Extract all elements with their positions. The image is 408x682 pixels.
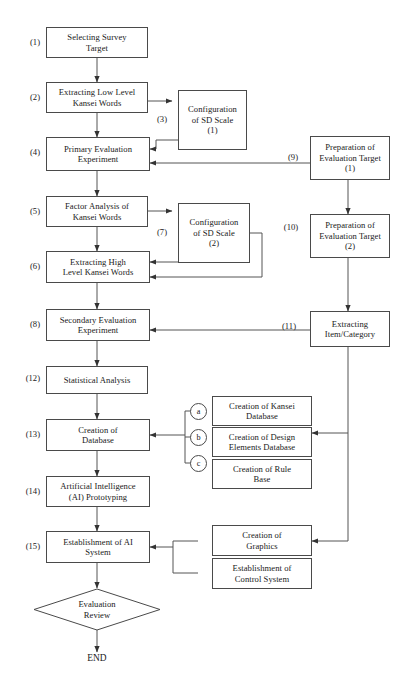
node-text-line: Database bbox=[229, 411, 295, 421]
node-text-line: Creation of Design bbox=[229, 432, 295, 442]
node-text-line: Creation of Kansei bbox=[229, 401, 295, 411]
node-extracting-low-level-kansei-words[interactable]: Extracting Low Level Kansei Words bbox=[46, 82, 148, 113]
node-selecting-survey-target[interactable]: Selecting Survey Target bbox=[46, 27, 148, 58]
node-creation-of-database[interactable]: Creation of Database bbox=[46, 419, 150, 451]
node-text-line: (AI) Prototyping bbox=[60, 492, 135, 502]
node-text-line: Experiment bbox=[60, 325, 137, 335]
step-label-4: (4) bbox=[12, 147, 40, 157]
step-label-11: (11) bbox=[274, 321, 304, 331]
node-text-line: Establishment of bbox=[233, 563, 292, 573]
step-label-12: (12) bbox=[8, 373, 40, 383]
node-text-line: Extracting High bbox=[63, 257, 134, 267]
decision-text-line: Evaluation bbox=[78, 599, 115, 609]
node-text-line: Extracting Low Level bbox=[59, 87, 135, 97]
node-establishment-of-ai-system[interactable]: Establishment of AI System bbox=[46, 531, 150, 563]
step-label-a: a bbox=[190, 403, 207, 420]
node-text-line: Factor Analysis of bbox=[65, 201, 129, 211]
node-text-line: of SD Scale bbox=[188, 115, 237, 125]
step-label-6: (6) bbox=[12, 261, 40, 271]
step-label-10: (10) bbox=[276, 222, 306, 232]
node-preparation-evaluation-target-1[interactable]: Preparation of Evaluation Target (1) bbox=[310, 136, 390, 180]
step-label-c-text: c bbox=[197, 459, 201, 468]
node-primary-evaluation-experiment[interactable]: Primary Evaluation Experiment bbox=[46, 137, 150, 171]
node-text-line: Artificial Intelligence bbox=[60, 481, 135, 491]
step-label-2: (2) bbox=[12, 92, 40, 102]
node-text-line: Preparation of bbox=[319, 220, 381, 230]
step-label-3: (3) bbox=[150, 114, 174, 124]
node-text-line: Establishment of AI bbox=[63, 537, 133, 547]
node-text-line: Evaluation Target bbox=[319, 231, 381, 241]
node-text-line: (2) bbox=[319, 241, 381, 251]
node-text-line: Secondary Evaluation bbox=[60, 315, 137, 325]
node-text-line: Experiment bbox=[64, 154, 132, 164]
step-label-8: (8) bbox=[12, 319, 40, 329]
step-label-7: (7) bbox=[150, 227, 174, 237]
node-configuration-sd-scale-2[interactable]: Configuration of SD Scale (2) bbox=[178, 203, 250, 263]
node-factor-analysis-kansei-words[interactable]: Factor Analysis of Kansei Words bbox=[46, 196, 148, 227]
node-statistical-analysis[interactable]: Statistical Analysis bbox=[46, 366, 148, 394]
node-text-line: Level Kansei Words bbox=[63, 267, 134, 277]
node-creation-of-rule-base[interactable]: Creation of Rule Base bbox=[212, 459, 312, 489]
node-extracting-item-category[interactable]: Extracting Item/Category bbox=[310, 311, 390, 347]
node-text-line: Kansei Words bbox=[59, 98, 135, 108]
node-text-line: of SD Scale bbox=[190, 228, 239, 238]
node-extracting-high-level-kansei-words[interactable]: Extracting High Level Kansei Words bbox=[46, 251, 150, 283]
node-text-line: Preparation of bbox=[319, 142, 381, 152]
node-text-line: (1) bbox=[188, 125, 237, 135]
step-label-b-text: b bbox=[196, 433, 200, 442]
step-label-1: (1) bbox=[12, 37, 40, 47]
node-text-line: (2) bbox=[190, 238, 239, 248]
step-label-14: (14) bbox=[8, 486, 40, 496]
node-text-line: (1) bbox=[319, 163, 381, 173]
node-text-line: Creation of bbox=[78, 425, 117, 435]
node-text-line: Configuration bbox=[188, 104, 237, 114]
node-text-line: Item/Category bbox=[325, 329, 375, 339]
step-label-c: c bbox=[190, 455, 207, 472]
step-label-13: (13) bbox=[8, 429, 40, 439]
step-label-9: (9) bbox=[280, 152, 306, 162]
node-text-line: Creation of bbox=[242, 530, 281, 540]
node-text-line: Elements Database bbox=[229, 442, 295, 452]
step-label-15: (15) bbox=[8, 541, 40, 551]
node-secondary-evaluation-experiment[interactable]: Secondary Evaluation Experiment bbox=[46, 309, 150, 341]
node-preparation-evaluation-target-2[interactable]: Preparation of Evaluation Target (2) bbox=[310, 214, 390, 258]
node-text-line: Graphics bbox=[242, 541, 281, 551]
node-text-line: Extracting bbox=[325, 319, 375, 329]
node-text-line: Primary Evaluation bbox=[64, 144, 132, 154]
node-creation-of-graphics[interactable]: Creation of Graphics bbox=[212, 525, 312, 556]
step-label-b: b bbox=[190, 429, 207, 446]
node-text-line: Control System bbox=[233, 574, 292, 584]
node-text-line: Creation of Rule bbox=[233, 464, 291, 474]
node-text-line: Configuration bbox=[190, 217, 239, 227]
node-text-line: Target bbox=[67, 43, 126, 53]
node-text-line: Kansei Words bbox=[65, 212, 129, 222]
node-text-line: System bbox=[63, 547, 133, 557]
node-ai-prototyping[interactable]: Artificial Intelligence (AI) Prototyping bbox=[46, 476, 150, 507]
node-text-line: Selecting Survey bbox=[67, 32, 126, 42]
node-text-line: Database bbox=[78, 435, 117, 445]
node-establishment-of-control-system[interactable]: Establishment of Control System bbox=[212, 558, 312, 589]
node-text-line: Evaluation Target bbox=[319, 153, 381, 163]
node-text-line: Base bbox=[233, 474, 291, 484]
node-creation-of-design-elements-database[interactable]: Creation of Design Elements Database bbox=[212, 427, 312, 457]
node-creation-of-kansei-database[interactable]: Creation of Kansei Database bbox=[212, 396, 312, 426]
step-label-a-text: a bbox=[197, 407, 201, 416]
node-configuration-sd-scale-1[interactable]: Configuration of SD Scale (1) bbox=[178, 90, 247, 150]
node-text-line: Statistical Analysis bbox=[64, 375, 131, 385]
end-terminator-label: END bbox=[67, 653, 127, 663]
decision-evaluation-review[interactable]: Evaluation Review bbox=[33, 588, 161, 631]
step-label-5: (5) bbox=[12, 206, 40, 216]
flowchart-canvas: Selecting Survey Target (1) Extracting L… bbox=[0, 0, 408, 682]
decision-text-line: Review bbox=[84, 610, 110, 620]
